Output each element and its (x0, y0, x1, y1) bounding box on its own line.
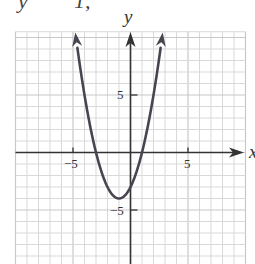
curve-arrow-icon (72, 32, 82, 47)
y-axis-label: y (122, 6, 133, 27)
y-tick-label-neg5: −5 (110, 203, 124, 218)
x-axis-label: x (248, 141, 255, 162)
x-tick-label-5: 5 (184, 156, 191, 171)
curve-arrow-icon (156, 32, 166, 47)
x-tick-label-neg5: −5 (64, 156, 78, 171)
graph-figure: y 1, y x −5 5 5 −5 (0, 0, 255, 264)
y-tick-label-5: 5 (117, 87, 124, 102)
coordinate-plane: y x −5 5 5 −5 (0, 0, 255, 264)
